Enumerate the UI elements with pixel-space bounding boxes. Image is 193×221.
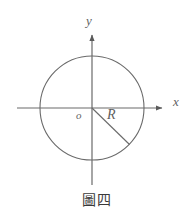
y-axis-label: y	[86, 14, 92, 27]
geometry-diagram	[0, 0, 193, 221]
x-axis-label: x	[173, 95, 179, 108]
axes-group	[17, 35, 162, 185]
radius-label: R	[107, 108, 116, 122]
figure-caption: 圖四	[0, 192, 193, 209]
origin-label: o	[76, 110, 82, 121]
figure-container: y x o R 圖四	[0, 0, 193, 221]
